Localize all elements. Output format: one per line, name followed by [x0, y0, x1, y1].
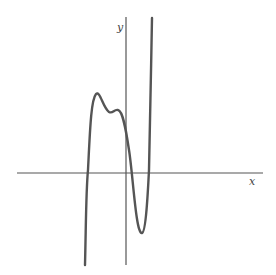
x-axis-label: x — [249, 175, 256, 188]
y-axis-label: y — [116, 21, 124, 34]
function-curve — [85, 18, 152, 265]
function-graph: x y — [0, 0, 276, 275]
